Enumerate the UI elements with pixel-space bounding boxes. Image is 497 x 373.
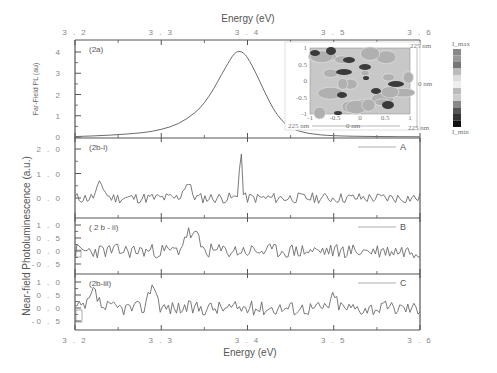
y-tick-label: 1 . 0 bbox=[36, 278, 62, 287]
inset-y-tick: 1 bbox=[304, 44, 308, 52]
map-contour bbox=[361, 70, 369, 76]
y-tick-label: 2 . 0 bbox=[36, 145, 62, 154]
y-tick-label: 0 . 0 bbox=[36, 247, 62, 256]
near-field-trace-A bbox=[75, 154, 420, 203]
inset-scale-right: 225 nm bbox=[408, 124, 430, 132]
colorbar-min-label: I_min bbox=[452, 128, 469, 136]
inset-scale-left: 225 nm bbox=[288, 122, 310, 130]
colorbar-segment bbox=[453, 49, 461, 56]
map-dark-spot bbox=[310, 50, 320, 56]
map-contour bbox=[314, 107, 326, 119]
top-x-tick-label: 3 . 5 bbox=[321, 28, 347, 37]
inset-x-tick: 1 bbox=[408, 114, 412, 122]
y-tick-label: 0 bbox=[56, 133, 62, 142]
map-contour bbox=[362, 99, 375, 111]
bottom-x-tick-label: 3 . 2 bbox=[62, 336, 88, 345]
y-tick-label: 2 bbox=[56, 91, 62, 100]
bottom-x-tick-label: 3 . 3 bbox=[148, 336, 174, 345]
colorbar-segment bbox=[453, 62, 461, 69]
inset-scale-mid: 0 nm bbox=[346, 122, 361, 130]
panel-label: (2b-i) bbox=[89, 143, 108, 152]
legend-label: A bbox=[400, 142, 406, 152]
map-dark-spot bbox=[343, 57, 355, 63]
colorbar-segment bbox=[453, 101, 461, 108]
map-dark-spot bbox=[337, 92, 347, 98]
inset-scale-top: 225 nm bbox=[410, 42, 432, 50]
legend-label: B bbox=[400, 222, 406, 232]
bottom-x-axis-title: Energy (eV) bbox=[223, 347, 276, 358]
y-tick-label: 1 . 0 bbox=[36, 170, 62, 179]
map-contour bbox=[361, 47, 380, 60]
near-field-trace-C bbox=[75, 285, 420, 315]
colorbar-segment bbox=[453, 69, 461, 76]
inset-y-tick: 0.5 bbox=[298, 61, 307, 69]
colorbar-segment bbox=[453, 75, 461, 82]
bottom-x-tick-label: 3 . 6 bbox=[407, 336, 433, 345]
colorbar-segment bbox=[453, 95, 461, 102]
inset-x-tick: -0.5 bbox=[329, 114, 341, 122]
inset-heatmap: -1-0.500.5110.50-0.5-1225 nm0 nm225 nm22… bbox=[285, 40, 470, 136]
near-field-trace-B bbox=[75, 228, 420, 258]
map-dark-spot bbox=[382, 101, 394, 109]
top-x-tick-label: 3 . 6 bbox=[407, 28, 433, 37]
colorbar-segment bbox=[453, 56, 461, 63]
panel-label: (2b-iii) bbox=[89, 279, 112, 288]
y-tick-label: 1 . 0 bbox=[36, 221, 62, 230]
top-x-tick-label: 3 . 3 bbox=[148, 28, 174, 37]
panel-label: ( 2 b - ii) bbox=[89, 223, 119, 232]
colorbar-segment bbox=[453, 114, 461, 121]
colorbar-segment bbox=[453, 82, 461, 89]
map-dark-spot bbox=[359, 64, 371, 70]
y-tick-label: 4 bbox=[56, 48, 62, 57]
inset-x-tick: 0 bbox=[358, 114, 362, 122]
map-contour bbox=[338, 78, 348, 89]
y-tick-label: 0 . 0 bbox=[36, 304, 62, 313]
y-tick-label: 0 . 5 bbox=[36, 291, 62, 300]
map-contour bbox=[323, 69, 337, 77]
colorbar-segment bbox=[453, 88, 461, 95]
y-tick-label: -0 . 5 bbox=[32, 317, 62, 326]
top-x-tick-label: 3 . 2 bbox=[62, 28, 88, 37]
inset-y-tick: 0 bbox=[304, 77, 308, 85]
inset-y-tick: -0.5 bbox=[296, 94, 308, 102]
top-x-axis-title: Energy (eV) bbox=[221, 13, 274, 24]
map-dark-spot bbox=[388, 81, 404, 87]
colorbar-max-label: I_max bbox=[452, 40, 470, 48]
y-tick-label: 0 . 5 bbox=[36, 234, 62, 243]
map-contour bbox=[382, 74, 394, 81]
map-dark-spot bbox=[326, 47, 336, 55]
top-x-tick-label: 3 . 4 bbox=[235, 28, 261, 37]
map-dark-spot bbox=[336, 69, 352, 75]
y-tick-label: 1 bbox=[56, 112, 62, 121]
map-dark-spot bbox=[371, 88, 381, 94]
colorbar-segment bbox=[453, 108, 461, 115]
bottom-x-tick-label: 3 . 4 bbox=[235, 336, 261, 345]
panel-label: (2a) bbox=[89, 45, 104, 54]
y-tick-label: 0 . 0 bbox=[36, 194, 62, 203]
inset-x-tick: -1 bbox=[307, 114, 313, 122]
inset-scale-middle-y: 0 nm bbox=[418, 80, 433, 88]
inset-x-tick: 0.5 bbox=[381, 114, 390, 122]
near-field-y-axis-title: Near-field Photoluminescence (a.u.) bbox=[21, 156, 32, 316]
far-field-y-axis-title: Far-Field PL (au) bbox=[32, 63, 40, 116]
map-contour bbox=[403, 72, 413, 84]
map-contour bbox=[381, 86, 399, 97]
y-tick-label: -0 . 5 bbox=[32, 260, 62, 269]
figure: Energy (eV) Energy (eV) Far-Field PL (au… bbox=[0, 0, 497, 373]
colorbar-segment bbox=[453, 121, 461, 128]
axis-artifact bbox=[76, 310, 82, 322]
legend-label: C bbox=[400, 278, 407, 288]
map-dark-spot bbox=[363, 76, 369, 80]
y-tick-label: 3 bbox=[56, 69, 62, 78]
bottom-x-tick-label: 3 . 5 bbox=[321, 336, 347, 345]
inset-y-tick: -1 bbox=[301, 110, 307, 118]
